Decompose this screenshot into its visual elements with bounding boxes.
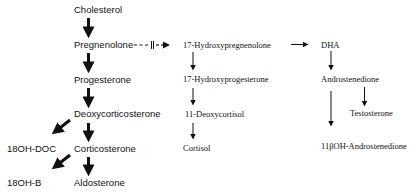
node-corticosterone: Corticosterone [74, 144, 136, 154]
node-aldosterone: Aldosterone [74, 178, 125, 188]
node-cortisol: Cortisol [183, 144, 210, 153]
node-progesterone: Progesterone [74, 75, 131, 85]
bold-arrow-deoxycorticosterone-18ohdoc [56, 120, 70, 131]
node-androstenedione: Androstenedione [321, 75, 379, 84]
node-testosterone: Testosterone [350, 109, 393, 118]
node-18oh-b: 18OH-B [7, 178, 41, 188]
node-cholesterol: Cholesterol [74, 5, 122, 15]
node-18oh-doc: 18OH-DOC [7, 144, 56, 154]
node-17-hydroxyprogesterone: 17-Hydroxyprogesterone [183, 75, 268, 84]
node-17-hydroxypregnenolone: 17-Hydroxypregnenolone [183, 41, 271, 50]
dashed-blocked-arrow-pregnenolone-17ohpreg [134, 41, 167, 49]
steroid-pathway-diagram: Cholesterol Pregnenolone Progesterone De… [0, 0, 420, 192]
node-11b-oh-androstenedione: 11βOH-Androstenedione [321, 142, 407, 151]
node-dha: DHA [321, 41, 339, 50]
node-11-deoxycortisol: 11-Deoxycortisol [185, 110, 244, 119]
node-pregnenolone: Pregnenolone [74, 40, 133, 50]
node-deoxycorticosterone: Deoxycorticosterone [74, 109, 161, 119]
bold-arrow-corticosterone-18ohb [56, 155, 70, 166]
pathway-arrows [0, 0, 420, 192]
